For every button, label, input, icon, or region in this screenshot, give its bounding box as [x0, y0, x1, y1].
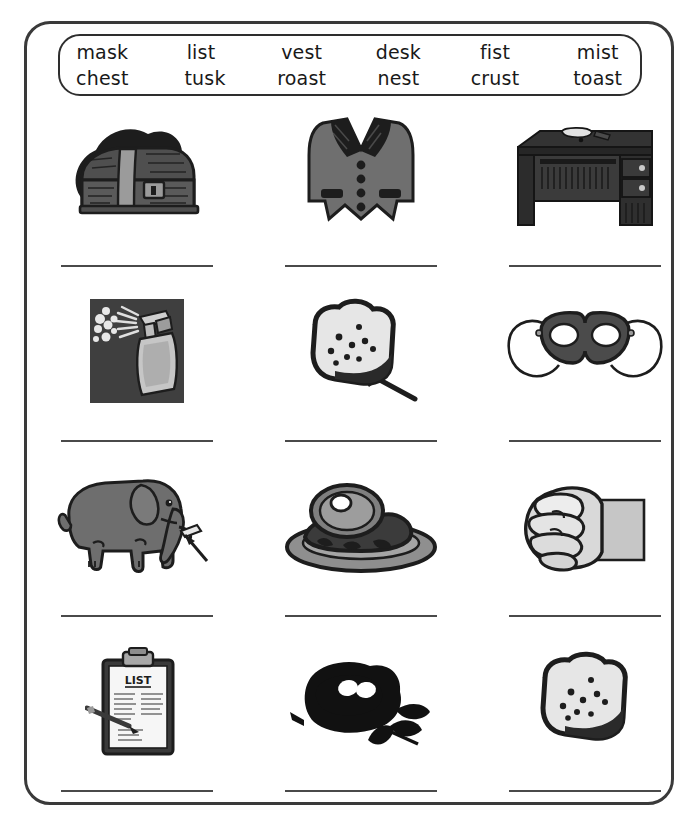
answer-line-mist[interactable] [61, 440, 213, 442]
grid-cell-tusk [37, 456, 237, 631]
answer-line-mask[interactable] [509, 440, 661, 442]
grid-row-3 [27, 456, 671, 631]
worksheet-frame: mask list vest desk fist mist chest tusk… [24, 21, 674, 805]
answer-line-toast[interactable] [285, 440, 437, 442]
answer-line-tusk[interactable] [61, 615, 213, 617]
word-bank-word-list[interactable]: list [153, 43, 250, 62]
treasure-chest-image [37, 106, 237, 249]
grid-cell-chest [37, 106, 237, 281]
picture-grid: LIST [27, 106, 671, 806]
grid-cell-toast [261, 281, 461, 456]
word-bank-word-chest[interactable]: chest [54, 69, 151, 88]
toast-on-fork-image [261, 281, 461, 424]
word-bank-word-toast[interactable]: toast [549, 69, 646, 88]
answer-line-desk[interactable] [509, 265, 661, 267]
desk-image [485, 106, 685, 249]
grid-cell-list: LIST [37, 631, 237, 806]
word-bank: mask list vest desk fist mist chest tusk… [58, 34, 642, 96]
grid-row-1 [27, 106, 671, 281]
word-bank-word-mask[interactable]: mask [54, 43, 151, 62]
answer-line-nest[interactable] [285, 790, 437, 792]
clipboard-list-heading: LIST [124, 674, 151, 687]
eye-mask-image [485, 281, 685, 424]
grid-cell-vest [261, 106, 461, 281]
answer-line-fist[interactable] [509, 615, 661, 617]
word-bank-word-mist[interactable]: mist [549, 43, 646, 62]
grid-cell-mask [485, 281, 685, 456]
answer-line-crust[interactable] [509, 790, 661, 792]
grid-cell-mist [37, 281, 237, 456]
grid-row-2 [27, 281, 671, 456]
word-bank-word-nest[interactable]: nest [350, 69, 447, 88]
clipboard-list-image: LIST [37, 631, 237, 774]
birds-nest-image [261, 631, 461, 774]
grid-cell-desk [485, 106, 685, 281]
answer-line-list[interactable] [61, 790, 213, 792]
word-bank-word-desk[interactable]: desk [350, 43, 447, 62]
vest-image [261, 106, 461, 249]
spray-bottle-mist-image [37, 281, 237, 424]
word-bank-word-roast[interactable]: roast [253, 69, 350, 88]
grid-row-4: LIST [27, 631, 671, 806]
grid-cell-fist [485, 456, 685, 631]
bread-crust-image [485, 631, 685, 774]
answer-line-roast[interactable] [285, 615, 437, 617]
grid-cell-nest [261, 631, 461, 806]
grid-cell-crust [485, 631, 685, 806]
word-bank-word-crust[interactable]: crust [447, 69, 544, 88]
word-bank-row-top: mask list vest desk fist mist [60, 36, 640, 65]
answer-line-chest[interactable] [61, 265, 213, 267]
elephant-tusk-image [37, 456, 237, 599]
grid-cell-roast [261, 456, 461, 631]
fist-image [485, 456, 685, 599]
word-bank-row-bottom: chest tusk roast nest crust toast [60, 65, 640, 94]
answer-line-vest[interactable] [285, 265, 437, 267]
word-bank-word-tusk[interactable]: tusk [157, 69, 254, 88]
word-bank-word-fist[interactable]: fist [447, 43, 544, 62]
roast-on-platter-image [261, 456, 461, 599]
word-bank-word-vest[interactable]: vest [253, 43, 350, 62]
